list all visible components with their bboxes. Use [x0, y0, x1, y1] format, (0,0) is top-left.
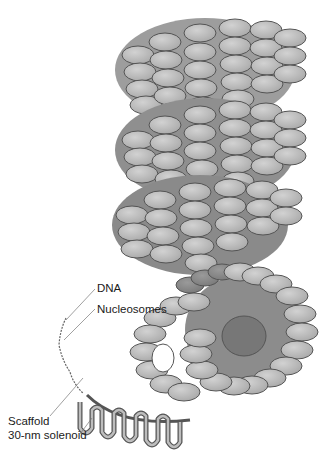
- label-nucleosomes: Nucleosomes: [97, 304, 167, 316]
- unwinding-coil: [176, 263, 318, 395]
- label-scaffold: Scaffold: [8, 416, 49, 428]
- coil-segment-lower: [112, 175, 302, 275]
- chromatin-illustration: [0, 0, 331, 471]
- leader-nucleosomes: [64, 309, 95, 340]
- label-dna: DNA: [97, 283, 121, 295]
- label-solenoid: 30-nm solenoid: [8, 430, 87, 442]
- leader-dna: [66, 289, 95, 320]
- chromatin-diagram: DNA Nucleosomes Scaffold 30-nm solenoid: [0, 0, 331, 471]
